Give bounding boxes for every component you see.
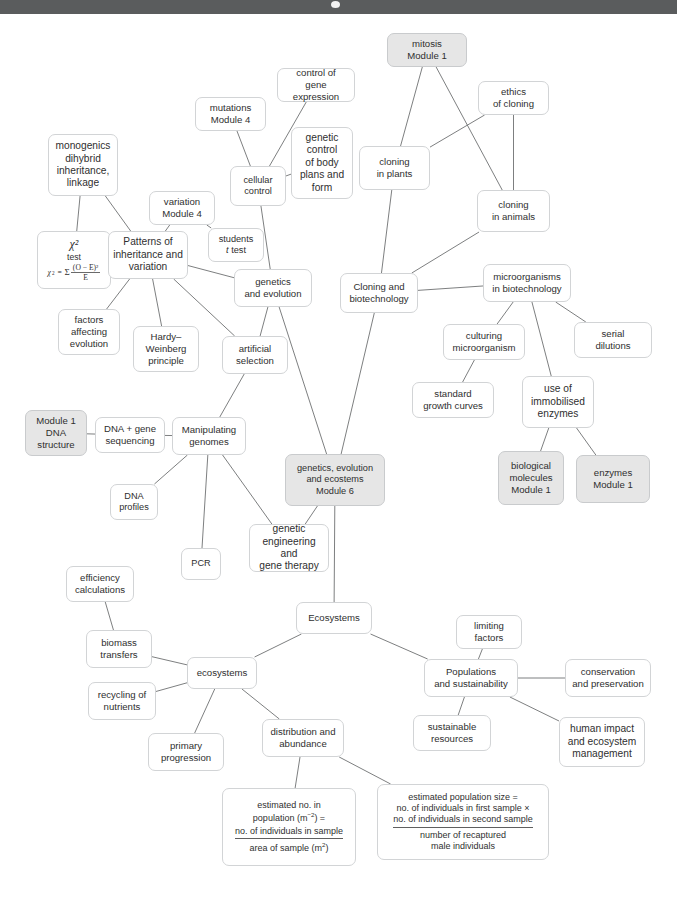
node-label: distribution and abundance (267, 726, 339, 749)
edge-distribution-abundance--estimated-population-size (339, 757, 390, 784)
node-sustainable-resources[interactable]: sustainable resources (413, 715, 491, 751)
node-label: DNA profiles (115, 491, 153, 513)
node-dna-profiles[interactable]: DNA profiles (110, 484, 158, 520)
chi-symbol: χ² (70, 237, 79, 252)
node-use-immobilised-enzymes[interactable]: use of immobilised enzymes (522, 376, 594, 428)
node-label: ecosystems (192, 667, 252, 679)
edge-ecosystems-sub--primary-progression (195, 689, 215, 733)
edge-genetics-evolution-ecosystems--genetic-engineering-gene-therapy (305, 506, 317, 524)
edge-manipulating-genomes--genetic-engineering-gene-therapy (223, 455, 272, 524)
node-ecosystems-main[interactable]: Ecosystems (296, 602, 372, 634)
node-label: factors affecting evolution (63, 314, 115, 349)
node-pcr[interactable]: PCR (181, 548, 221, 580)
formula-numerator-1: no. of individuals in first sample × (397, 803, 530, 814)
node-patterns-inheritance[interactable]: Patterns of inheritance and variation (108, 231, 188, 279)
edge-genetics-evolution--genetics-evolution-ecosystems (279, 307, 326, 454)
edge-mutations-module4--cellular-control (237, 131, 250, 166)
node-dna-gene-sequencing[interactable]: DNA + gene sequencing (95, 417, 165, 453)
node-label: Ecosystems (301, 612, 367, 624)
node-recycling-nutrients[interactable]: recycling of nutrients (88, 682, 156, 720)
node-limiting-factors[interactable]: limiting factors (456, 615, 522, 649)
node-label: human impact and ecosystem management (564, 723, 640, 760)
node-estimated-no-population[interactable]: estimated no. inpopulation (m−2) =no. of… (222, 788, 356, 866)
edge-microorganisms-biotech--culturing-microorganism (497, 302, 513, 324)
node-label: standard growth curves (417, 388, 489, 411)
node-label: genetic control of body plans and form (296, 132, 348, 194)
node-artificial-selection[interactable]: artificial selection (222, 336, 288, 374)
node-label: genetics and evolution (239, 276, 307, 299)
node-label: Cloning and biotechnology (345, 281, 413, 304)
node-serial-dilutions[interactable]: serial dilutions (574, 322, 652, 358)
node-label: enzymes Module 1 (581, 467, 645, 490)
node-label: Module 1 DNA structure (30, 415, 82, 450)
node-label: genetics, evolution and ecostems Module … (290, 463, 380, 497)
node-label: serial dilutions (579, 328, 647, 351)
node-label: microorganisms in biotechnology (488, 271, 566, 294)
node-label: efficiency calculations (71, 572, 129, 595)
node-monogenics[interactable]: monogenics dihybrid inheritance, linkage (48, 134, 118, 196)
node-label: conservation and preservation (570, 666, 646, 689)
diagram-canvas: mitosis Module 1control of gene expressi… (0, 14, 677, 898)
node-label: studentst test (213, 234, 259, 256)
node-label: culturing microorganism (448, 330, 520, 353)
node-cloning-biotechnology[interactable]: Cloning and biotechnology (340, 273, 418, 313)
node-factors-affecting-evolution[interactable]: factors affecting evolution (58, 309, 120, 355)
concept-map-page: mitosis Module 1control of gene expressi… (0, 0, 677, 898)
edge-ecosystems-main--ecosystems-sub (255, 634, 302, 657)
formula-denominator-2: male individuals (431, 841, 495, 852)
edge-distribution-abundance--estimated-no-population (295, 757, 300, 788)
node-label: mutations Module 4 (200, 102, 261, 125)
node-genetic-engineering-gene-therapy[interactable]: genetic engineering and gene therapy (249, 524, 329, 572)
node-genetics-evolution[interactable]: genetics and evolution (234, 269, 312, 307)
node-culturing-microorganism[interactable]: culturing microorganism (443, 324, 525, 360)
edge-monogenics--chi-squared (77, 196, 80, 231)
edge-ecosystems-sub--distribution-abundance (242, 689, 279, 719)
node-cellular-control[interactable]: cellular control (230, 166, 286, 206)
node-ethics-cloning[interactable]: ethics of cloning (478, 81, 549, 115)
node-enzymes-module1[interactable]: enzymes Module 1 (576, 455, 650, 503)
node-label: sustainable resources (418, 721, 486, 744)
node-cloning-animals[interactable]: cloning in animals (477, 190, 550, 232)
edge-cloning-plants--cloning-biotechnology (381, 190, 391, 273)
node-biomass-transfers[interactable]: biomass transfers (86, 630, 152, 668)
node-manipulating-genomes[interactable]: Manipulating genomes (172, 417, 246, 455)
edge-artificial-selection--manipulating-genomes (220, 374, 244, 417)
chi-word: test (67, 252, 81, 263)
node-label: DNA + gene sequencing (100, 423, 160, 446)
node-label: biomass transfers (91, 637, 147, 660)
node-chi-squared[interactable]: χ²testχ2 = Σ(O − E)²E (37, 231, 111, 289)
node-estimated-population-size[interactable]: estimated population size =no. of indivi… (377, 784, 549, 860)
edge-patterns-inheritance--genetics-evolution (188, 266, 234, 278)
edge-culturing-microorganism--standard-growth-curves (463, 360, 475, 382)
node-cloning-plants[interactable]: cloning in plants (359, 146, 430, 190)
node-variation-module4[interactable]: variation Module 4 (149, 191, 215, 225)
edge-recycling-nutrients--ecosystems-sub (156, 683, 187, 692)
node-module1-dna-structure[interactable]: Module 1 DNA structure (25, 410, 87, 456)
node-microorganisms-biotech[interactable]: microorganisms in biotechnology (483, 264, 571, 302)
node-label: variation Module 4 (154, 196, 210, 219)
node-standard-growth-curves[interactable]: standard growth curves (412, 382, 494, 418)
node-genetics-evolution-ecosystems[interactable]: genetics, evolution and ecostems Module … (285, 454, 385, 506)
node-human-impact[interactable]: human impact and ecosystem management (559, 717, 645, 767)
node-hardy-weinberg[interactable]: Hardy– Weinberg principle (133, 326, 199, 372)
node-ecosystems-sub[interactable]: ecosystems (187, 657, 257, 689)
chi-equation: χ2 = Σ(O − E)²E (48, 263, 101, 283)
node-mitosis[interactable]: mitosis Module 1 (387, 33, 467, 67)
node-biological-molecules[interactable]: biological molecules Module 1 (498, 451, 564, 505)
node-students-t-test[interactable]: studentst test (208, 228, 264, 262)
node-genetic-control-body[interactable]: genetic control of body plans and form (291, 127, 353, 199)
node-conservation-preservation[interactable]: conservation and preservation (565, 659, 651, 697)
node-populations-sustainability[interactable]: Populations and sustainability (424, 659, 518, 697)
edge-variation-module4--students-t-test (207, 225, 211, 228)
edge-genetics-evolution--artificial-selection (260, 307, 268, 336)
node-distribution-abundance[interactable]: distribution and abundance (262, 719, 344, 757)
node-control-gene-expression[interactable]: control of gene expression (277, 68, 355, 102)
edge-populations-sustainability--sustainable-resources (458, 697, 464, 715)
node-efficiency-calculations[interactable]: efficiency calculations (66, 566, 134, 602)
formula-numerator-2: no. of individuals in second sample (393, 814, 533, 827)
edge-limiting-factors--populations-sustainability (478, 649, 482, 659)
node-label: primary progression (153, 740, 219, 763)
node-mutations-module4[interactable]: mutations Module 4 (195, 97, 266, 131)
node-label: PCR (186, 558, 216, 569)
node-primary-progression[interactable]: primary progression (148, 733, 224, 771)
